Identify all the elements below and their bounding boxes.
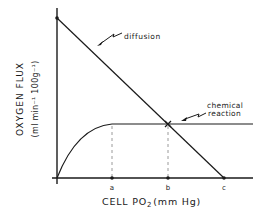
x-axis-label-sub: 2 — [147, 201, 152, 209]
tick-dot-b — [166, 176, 170, 180]
diffusion-annotation-arrow — [97, 33, 122, 46]
reaction-label: reaction — [208, 109, 241, 118]
x-axis-label-main: CELL PO — [102, 196, 147, 207]
tick-label-a: a — [110, 184, 114, 192]
oxygen-flux-chart: a b c CELL PO2(mm Hg) OXYGEN FLUX (ml mi… — [0, 0, 260, 212]
diffusion-label: diffusion — [124, 32, 161, 41]
diffusion-start-dot — [55, 16, 59, 20]
chemical-reaction-curve — [57, 124, 253, 178]
diffusion-line — [57, 18, 224, 178]
tick-label-b: b — [166, 184, 171, 192]
y-axis-units: (ml min⁻¹ 100g⁻¹) — [31, 61, 40, 138]
chemical-reaction-annotation-arrow — [181, 113, 206, 121]
tick-label-c: c — [222, 184, 226, 192]
tick-dot-a — [110, 176, 114, 180]
x-axis-label-unit: (mm Hg) — [153, 196, 201, 207]
tick-dot-c — [222, 176, 226, 180]
x-axis-label: CELL PO2(mm Hg) — [102, 196, 201, 209]
y-axis-label: OXYGEN FLUX — [15, 62, 25, 136]
